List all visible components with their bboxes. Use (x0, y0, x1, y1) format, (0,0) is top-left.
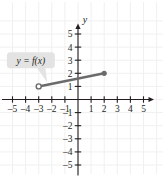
x-tick-label: 5 (141, 104, 146, 114)
grid-lines (0, 2, 163, 174)
y-tick-label: –5 (62, 160, 73, 170)
x-tick-label: –3 (33, 104, 44, 114)
callout-leader-line (37, 67, 48, 82)
y-tick-label: –2 (62, 121, 73, 131)
x-tick-label: –5 (7, 104, 18, 114)
x-tick-label: 1 (89, 104, 94, 114)
y-axis-label: y (82, 14, 88, 25)
x-tick-label: 3 (115, 104, 120, 114)
x-axis-arrow-icon (148, 97, 154, 102)
y-axis-arrow-icon (75, 24, 80, 30)
function-graph-figure: –5–4–3–2–112345–5–4–3–2–112345 y y = f(x… (0, 0, 163, 176)
axes (2, 24, 154, 176)
x-tick-label: 4 (128, 104, 133, 114)
callout-annotation: y = f(x) (7, 52, 55, 82)
y-tick-label: 3 (68, 56, 73, 66)
callout-label: y = f(x) (16, 56, 46, 67)
y-tick-label: 4 (68, 43, 73, 53)
x-tick-label: –4 (20, 104, 31, 114)
y-tick-label: 1 (68, 82, 73, 92)
open-endpoint-marker (36, 84, 41, 89)
coordinate-plane-svg: –5–4–3–2–112345–5–4–3–2–112345 y y = f(x… (0, 0, 163, 176)
y-tick-label: 5 (68, 29, 73, 39)
x-tick-label: 2 (102, 104, 107, 114)
y-tick-label: 2 (68, 69, 73, 79)
y-tick-label: –1 (62, 108, 73, 118)
y-tick-label: –3 (62, 134, 73, 144)
x-tick-label: –2 (46, 104, 57, 114)
y-tick-label: –4 (62, 147, 73, 157)
closed-endpoint-marker (102, 71, 107, 76)
